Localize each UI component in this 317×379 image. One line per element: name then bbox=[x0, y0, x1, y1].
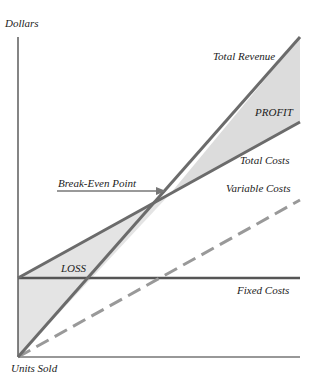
total-costs-label: Total Costs bbox=[240, 154, 289, 166]
profit-label: PROFIT bbox=[255, 106, 293, 118]
variable-costs-label: Variable Costs bbox=[226, 182, 290, 194]
break-even-label: Break-Even Point bbox=[58, 177, 136, 189]
y-axis-label: Dollars bbox=[5, 17, 39, 29]
total-costs-line bbox=[18, 122, 300, 278]
loss-label: LOSS bbox=[61, 262, 86, 274]
total-revenue-label: Total Revenue bbox=[213, 50, 275, 62]
x-axis-label: Units Sold bbox=[11, 362, 57, 374]
fixed-costs-label: Fixed Costs bbox=[237, 284, 289, 296]
total-revenue-line bbox=[18, 37, 300, 357]
